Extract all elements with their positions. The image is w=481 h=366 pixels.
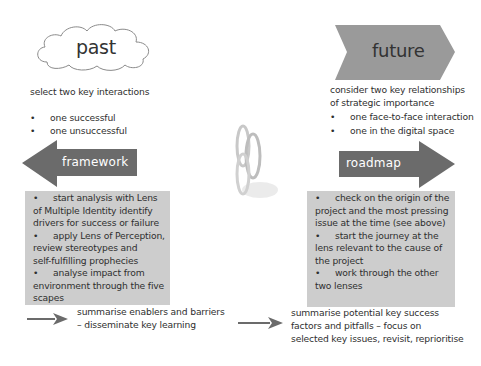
roadmap-summary-line-2: factors and pitfalls – focus on xyxy=(291,320,421,333)
past-bullet-text: one unsuccessful xyxy=(50,125,127,136)
bullet-glyph: • xyxy=(315,230,335,243)
future-bullet-text: one face-to-face interaction xyxy=(350,111,474,122)
line-text: analyse impact from xyxy=(53,267,145,278)
framework-line: scapes xyxy=(33,292,165,305)
roadmap-line: project and the most pressing xyxy=(315,205,449,218)
framework-line: •start analysis with Lens xyxy=(33,192,165,205)
line-text: project and the most pressing xyxy=(315,205,448,216)
line-text: review stereotypes and xyxy=(33,242,137,253)
framework-line: review stereotypes and xyxy=(33,242,165,255)
bullet-glyph: • xyxy=(33,230,53,243)
line-text: scapes xyxy=(33,292,64,303)
framework-line: self-fulfilling prophecies xyxy=(33,255,165,268)
roadmap-line: •work through the other xyxy=(315,267,449,280)
past-intro: select two key interactions xyxy=(30,86,149,99)
line-text: start the journey at the xyxy=(335,230,438,241)
framework-label: framework xyxy=(62,155,128,169)
roadmap-summary-line-3: selected key issues, revisit, reprioriti… xyxy=(291,333,464,346)
roadmap-label: roadmap xyxy=(346,156,401,170)
bullet-glyph: • xyxy=(30,125,50,138)
framework-summary-line-1: summarise enablers and barriers xyxy=(77,306,225,319)
bullet-glyph: • xyxy=(30,112,50,125)
future-bullet-1: •one face-to-face interaction xyxy=(330,111,474,124)
past-title: past xyxy=(76,36,116,58)
roadmap-line: •check on the origin of the xyxy=(315,192,449,205)
summary-arrow-icon xyxy=(238,316,284,330)
line-text: the project xyxy=(315,255,363,266)
past-bullet-2: •one unsuccessful xyxy=(30,125,127,138)
roadmap-line: •start the journey at the xyxy=(315,230,449,243)
line-text: work through the other xyxy=(335,267,438,278)
framework-line: •analyse impact from xyxy=(33,267,165,280)
line-text: check on the origin of the xyxy=(335,192,449,203)
framework-line: of Multiple Identity identify xyxy=(33,205,165,218)
framework-summary-line-2: – disseminate key learning xyxy=(77,319,196,332)
interlocking-rings-icon xyxy=(220,118,284,204)
line-text: two lenses xyxy=(315,280,362,291)
line-text: apply Lens of Perception, xyxy=(53,230,165,241)
roadmap-line: lens relevant to the cause of xyxy=(315,242,449,255)
past-bullet-text: one successful xyxy=(50,112,115,123)
bullet-glyph: • xyxy=(330,111,350,124)
future-title: future xyxy=(372,40,425,61)
line-text: environment through the five xyxy=(33,280,164,291)
future-intro-line-1: consider two key relationships xyxy=(330,84,465,97)
line-text: lens relevant to the cause of xyxy=(315,242,442,253)
framework-line: drivers for success or failure xyxy=(33,217,165,230)
line-text: of Multiple Identity identify xyxy=(33,205,153,216)
framework-steps-list: •start analysis with Lens of Multiple Id… xyxy=(33,192,165,305)
roadmap-line: the project xyxy=(315,255,449,268)
line-text: start analysis with Lens xyxy=(53,192,157,203)
bullet-glyph: • xyxy=(33,267,53,280)
future-bullet-2: •one in the digital space xyxy=(330,125,454,138)
future-intro-line-2: of strategic importance xyxy=(330,97,434,110)
line-text: drivers for success or failure xyxy=(33,217,159,228)
roadmap-line: two lenses xyxy=(315,280,449,293)
roadmap-steps-list: •check on the origin of the project and … xyxy=(315,192,449,292)
bullet-glyph: • xyxy=(330,125,350,138)
framework-line: •apply Lens of Perception, xyxy=(33,230,165,243)
past-bullet-1: •one successful xyxy=(30,112,115,125)
future-bullet-text: one in the digital space xyxy=(350,125,454,136)
bullet-glyph: • xyxy=(315,192,335,205)
line-text: self-fulfilling prophecies xyxy=(33,255,138,266)
summary-arrow-icon xyxy=(27,312,69,326)
framework-line: environment through the five xyxy=(33,280,165,293)
line-text: issue at the time (see above) xyxy=(315,217,445,228)
bullet-glyph: • xyxy=(315,267,335,280)
roadmap-summary-line-1: summarise potential key success xyxy=(291,307,439,320)
bullet-glyph: • xyxy=(33,192,53,205)
roadmap-line: issue at the time (see above) xyxy=(315,217,449,230)
